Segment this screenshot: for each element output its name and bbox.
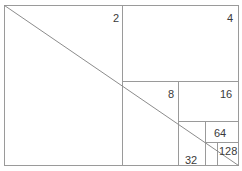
cell-label-8: 8	[168, 89, 174, 100]
cell-label-4: 4	[227, 13, 233, 24]
diagonal-line	[5, 6, 239, 166]
powers-of-two-diagram: 2 4 8 16 64 32 128	[0, 0, 242, 171]
cell-label-64: 64	[214, 128, 226, 139]
diagram-canvas	[0, 0, 242, 171]
cell-label-16: 16	[220, 89, 232, 100]
cell-label-32: 32	[185, 155, 197, 166]
cell-label-128: 128	[219, 146, 237, 157]
cell-label-2: 2	[113, 13, 119, 24]
